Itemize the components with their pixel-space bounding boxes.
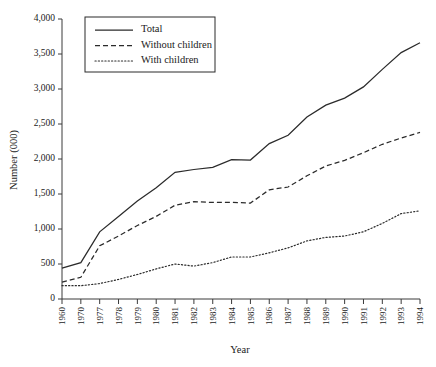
chart-container: 05001,0001,5002,0002,5003,0003,5004,000 … (0, 0, 436, 367)
y-tick-label: 3,000 (34, 83, 56, 93)
y-axis: 05001,0001,5002,0002,5003,0003,5004,000 (34, 13, 62, 303)
x-tick-label: 1982 (189, 307, 199, 325)
x-tick-label: 1979 (133, 307, 143, 326)
x-tick-label: 1992 (378, 307, 388, 325)
x-tick-label: 1989 (321, 307, 331, 326)
x-tick-label: 1984 (227, 307, 237, 326)
x-tick-label: 1986 (264, 307, 274, 326)
x-tick-label: 1977 (95, 307, 105, 326)
y-tick-label: 1,500 (34, 188, 56, 198)
legend-label: Total (141, 23, 163, 34)
x-tick-label: 1985 (246, 307, 256, 326)
y-tick-label: 500 (41, 258, 56, 268)
x-tick-label: 1980 (151, 307, 161, 326)
x-axis: 1960197019771978197919801981198219831984… (57, 299, 425, 325)
series-lines (62, 43, 420, 286)
series-line-with-children (62, 211, 420, 286)
x-tick-label: 1960 (57, 307, 67, 326)
x-tick-label: 1970 (76, 307, 86, 326)
y-tick-label: 1,000 (34, 223, 56, 233)
y-tick-label: 4,000 (34, 13, 56, 23)
line-chart: 05001,0001,5002,0002,5003,0003,5004,000 … (0, 0, 436, 367)
y-tick-label: 0 (50, 293, 55, 303)
y-axis-title: Number (000) (8, 130, 20, 190)
x-tick-label: 1981 (170, 307, 180, 325)
legend-label: Without children (141, 39, 213, 50)
x-tick-label: 1987 (283, 307, 293, 326)
y-tick-label: 3,500 (34, 48, 56, 58)
x-tick-label: 1993 (396, 307, 406, 326)
series-line-without-children (62, 132, 420, 282)
y-tick-label: 2,000 (34, 153, 56, 163)
y-tick-label: 2,500 (34, 118, 56, 128)
legend-label: With children (141, 54, 199, 65)
series-line-total (62, 43, 420, 268)
x-tick-label: 1990 (340, 307, 350, 326)
x-tick-label: 1983 (208, 307, 218, 326)
x-tick-label: 1978 (114, 307, 124, 326)
x-tick-label: 1988 (302, 307, 312, 326)
x-axis-title: Year (230, 344, 250, 355)
x-tick-label: 1991 (359, 307, 369, 325)
x-tick-label: 1994 (415, 307, 425, 326)
chart-legend: TotalWithout childrenWith children (85, 17, 215, 72)
